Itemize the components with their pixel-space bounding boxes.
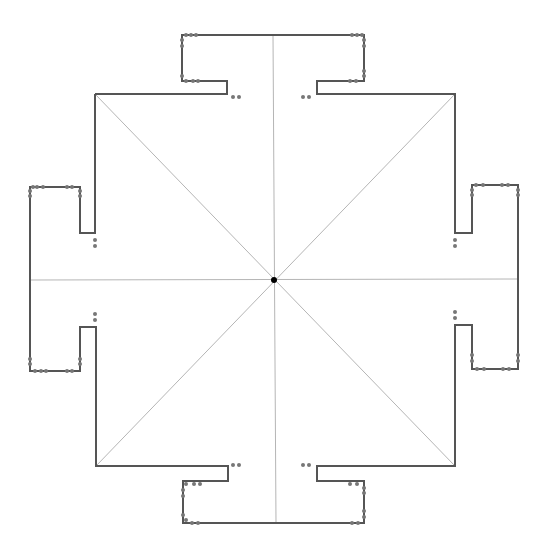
vertex-dot — [181, 494, 185, 498]
vertex-dot — [362, 44, 366, 48]
vertex-dot — [516, 193, 520, 197]
vertex-dot — [355, 33, 359, 37]
vertex-dot — [356, 521, 360, 525]
vertex-dot — [31, 185, 35, 189]
inner-dot — [301, 95, 305, 99]
vertex-dot — [181, 513, 185, 517]
vertex-dot — [70, 185, 74, 189]
inner-dot — [93, 312, 97, 316]
vertex-dot — [78, 194, 82, 198]
vertex-dot — [501, 367, 505, 371]
vertex-dot — [35, 185, 39, 189]
vertex-dot — [65, 185, 69, 189]
vertex-dot — [65, 369, 69, 373]
vertex-dot — [350, 521, 354, 525]
inner-dot — [231, 95, 235, 99]
vertex-dot — [44, 369, 48, 373]
vertex-dot — [180, 74, 184, 78]
vertex-dot — [348, 79, 352, 83]
vertex-dot — [507, 367, 511, 371]
inner-dot — [453, 310, 457, 314]
cross-diagram — [0, 0, 551, 552]
inner-dot — [237, 95, 241, 99]
vertex-dot — [194, 33, 198, 37]
inner-dot — [307, 463, 311, 467]
vertex-dot — [196, 521, 200, 525]
vertex-dot — [470, 188, 474, 192]
vertex-dot — [28, 194, 32, 198]
vertex-dot — [355, 482, 359, 486]
vertex-dot — [470, 359, 474, 363]
vertex-dot — [180, 44, 184, 48]
vertex-dot — [360, 33, 364, 37]
vertex-dot — [180, 38, 184, 42]
inner-dot — [453, 316, 457, 320]
vertex-dot — [184, 482, 188, 486]
vertex-dot — [481, 183, 485, 187]
vertex-dot — [70, 369, 74, 373]
inner-dot — [93, 238, 97, 242]
inner-dot — [453, 244, 457, 248]
vertex-dot — [362, 515, 366, 519]
vertex-dot — [362, 486, 366, 490]
vertex-dot — [516, 188, 520, 192]
inner-dot — [453, 238, 457, 242]
vertex-dot — [470, 193, 474, 197]
vertex-dot — [189, 33, 193, 37]
vertex-dot — [516, 353, 520, 357]
vertex-dot — [78, 189, 82, 193]
vertex-dot — [190, 521, 194, 525]
vertex-dot — [28, 362, 32, 366]
vertex-dot — [482, 367, 486, 371]
vertex-dot — [181, 488, 185, 492]
vertex-dot — [198, 482, 202, 486]
vertex-dot — [470, 353, 474, 357]
vertex-dot — [362, 491, 366, 495]
vertex-dot — [500, 183, 504, 187]
vertex-dot — [78, 357, 82, 361]
vertex-dot — [196, 79, 200, 83]
vertex-dot — [348, 482, 352, 486]
vertex-dot — [184, 79, 188, 83]
vertex-dot — [475, 367, 479, 371]
inner-dot — [301, 463, 305, 467]
vertex-dot — [474, 183, 478, 187]
vertex-dot — [41, 185, 45, 189]
vertex-dot — [28, 189, 32, 193]
vertex-dot — [184, 518, 188, 522]
inner-dot — [307, 95, 311, 99]
vertex-dot — [506, 183, 510, 187]
vertex-dot — [362, 74, 366, 78]
vertex-dot — [191, 79, 195, 83]
vertex-dot — [362, 69, 366, 73]
vertex-dot — [354, 79, 358, 83]
inner-dot — [93, 318, 97, 322]
vertex-dot — [39, 369, 43, 373]
vertex-dot — [28, 357, 32, 361]
vertex-dot — [184, 33, 188, 37]
inner-dot — [93, 244, 97, 248]
inner-dot — [237, 463, 241, 467]
center-point — [271, 277, 277, 283]
vertex-dot — [33, 369, 37, 373]
inner-dot — [231, 463, 235, 467]
vertex-dot — [362, 38, 366, 42]
vertex-dot — [192, 482, 196, 486]
vertex-dot — [350, 33, 354, 37]
vertex-dot — [78, 362, 82, 366]
vertex-dot — [362, 509, 366, 513]
vertex-dot — [516, 359, 520, 363]
